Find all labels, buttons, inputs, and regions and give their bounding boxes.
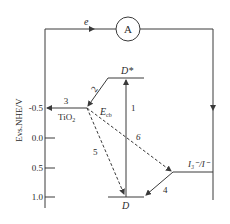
process-3-label: 3 [64, 96, 69, 106]
process-4-arrow [146, 172, 173, 195]
tick-label-1-0: 1.0 [32, 192, 44, 202]
process-5-label: 5 [93, 147, 98, 157]
tick-label-0-0: 0.0 [32, 133, 44, 143]
electron-flow-arrow-icon [89, 26, 95, 32]
y-axis-label: Evs.NHE/V [14, 98, 24, 142]
process-6-label: 6 [136, 132, 141, 142]
redox-label: I₃⁻/I⁻ [187, 159, 211, 169]
y-axis [45, 29, 55, 208]
process-4-label: 4 [163, 185, 168, 195]
conduction-band-label: Ecb [99, 106, 112, 118]
current-down-arrow-icon [210, 105, 216, 111]
energy-diagram: A e -0.5 0.0 0.5 1.0 Evs.NHE/V 3 TiO2 D*… [0, 0, 230, 224]
process-6-arrow [87, 108, 171, 171]
ground-dye-label: D [121, 200, 130, 211]
process-2-label: 2 [89, 85, 100, 94]
ammeter-label: A [124, 23, 132, 35]
excited-dye-label: D* [120, 65, 133, 76]
tick-label-neg-0-5: -0.5 [29, 103, 44, 113]
electron-label: e [84, 16, 89, 27]
process-1-label: 1 [131, 103, 136, 113]
tick-label-0-5: 0.5 [32, 163, 44, 173]
tio2-label: TiO2 [58, 112, 75, 123]
